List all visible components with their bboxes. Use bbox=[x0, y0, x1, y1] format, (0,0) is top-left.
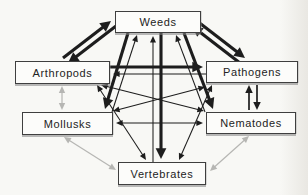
edge-weeds-arthropods bbox=[75, 26, 116, 58]
edge-arthropods-weeds bbox=[63, 26, 104, 58]
edge-mollusks-vertebrates bbox=[69, 140, 112, 167]
arrowhead-pathogens-to-nematodes bbox=[253, 102, 261, 110]
node-arthropods-label: Arthropods bbox=[33, 67, 93, 79]
arrowhead-mollusks-to-vertebrates bbox=[108, 164, 116, 170]
node-nematodes-label: Nematodes bbox=[220, 117, 282, 129]
arrowhead-nematodes-to-weeds bbox=[176, 35, 182, 42]
node-vertebrates-label: Vertebrates bbox=[131, 168, 194, 180]
node-weeds: Weeds bbox=[115, 11, 201, 33]
edge-nematodes-vertebrates bbox=[214, 140, 245, 168]
interaction-diagram: Weeds Arthropods Pathogens Mollusks Nema… bbox=[0, 0, 308, 195]
arrowhead-vertebrates-to-arthropods bbox=[97, 85, 103, 92]
arrowhead-nematodes-to-pathogens bbox=[245, 85, 253, 93]
edge-pathogens-weeds bbox=[199, 31, 240, 63]
node-nematodes: Nematodes bbox=[206, 112, 296, 134]
arrowhead-arthropods-to-vertebrates bbox=[140, 153, 146, 160]
node-pathogens-label: Pathogens bbox=[223, 66, 281, 78]
arrowhead-vertebrates-to-mollusks bbox=[64, 137, 72, 143]
arrowhead-mollusks-to-arthropods bbox=[59, 86, 65, 93]
node-weeds-label: Weeds bbox=[139, 16, 176, 28]
edge-weeds-pathogens bbox=[197, 21, 238, 53]
arrowhead-vertebrates-to-weeds bbox=[150, 36, 156, 43]
node-arthropods: Arthropods bbox=[15, 61, 110, 84]
node-mollusks-label: Mollusks bbox=[44, 118, 92, 130]
arrowhead-mollusks-to-nematodes bbox=[196, 120, 203, 126]
node-mollusks: Mollusks bbox=[22, 112, 113, 135]
arrowhead-mollusks-to-weeds bbox=[132, 35, 138, 42]
node-vertebrates: Vertebrates bbox=[118, 162, 206, 185]
node-pathogens: Pathogens bbox=[206, 61, 298, 83]
arrowhead-weeds-to-vertebrates bbox=[156, 148, 167, 159]
arrowhead-arthropods-to-mollusks bbox=[59, 103, 65, 110]
